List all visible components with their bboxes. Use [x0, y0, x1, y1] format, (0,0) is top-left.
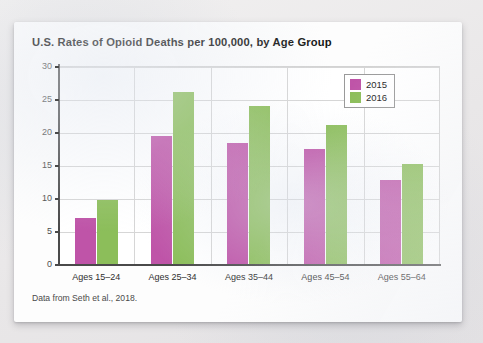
y-tick-label-30: 30 [42, 61, 52, 71]
y-tick-mark-5 [55, 231, 59, 233]
x-axis-label: Ages 25–34 [149, 272, 197, 282]
y-tick-label-25: 25 [42, 94, 52, 104]
legend-label-2016: 2016 [366, 92, 387, 103]
y-tick-label-20: 20 [42, 127, 52, 137]
x-axis-label: Ages 35–44 [225, 272, 273, 282]
x-axis-label: Ages 45–54 [301, 272, 349, 282]
legend-swatch-2016 [350, 92, 361, 103]
bar-2015 [227, 143, 248, 264]
x-axis-label: Ages 55–64 [378, 272, 426, 282]
y-tick-label-0: 0 [47, 259, 52, 269]
y-tick-label-10: 10 [42, 193, 52, 203]
y-tick-label-5: 5 [47, 226, 52, 236]
legend-swatch-2015 [350, 79, 361, 90]
y-tick-mark-30 [55, 66, 59, 68]
y-tick-label-15: 15 [42, 160, 52, 170]
x-axis-line [58, 264, 441, 266]
bar-2016 [402, 164, 423, 264]
bar-2015 [75, 218, 96, 264]
source-note: Data from Seth et al., 2018. [32, 293, 137, 303]
bar-2015 [151, 136, 172, 264]
chart-legend: 2015 2016 [344, 74, 395, 108]
bar-group [58, 67, 134, 264]
y-tick-mark-15 [55, 165, 59, 167]
bar-2016 [173, 92, 194, 264]
legend-label-2015: 2015 [366, 79, 387, 90]
bar-2016 [249, 106, 270, 264]
bar-group [134, 67, 210, 264]
y-tick-mark-25 [55, 99, 59, 101]
y-tick-mark-0 [55, 264, 59, 266]
bar-group [211, 67, 287, 264]
chart-title: U.S. Rates of Opioid Deaths per 100,000,… [32, 36, 332, 48]
x-axis-label: Ages 15–24 [72, 272, 120, 282]
y-tick-mark-20 [55, 132, 59, 134]
bar-2015 [304, 149, 325, 265]
legend-item-2016: 2016 [350, 92, 387, 103]
y-tick-mark-10 [55, 198, 59, 200]
figure-card: U.S. Rates of Opioid Deaths per 100,000,… [14, 22, 462, 322]
legend-item-2015: 2015 [350, 79, 387, 90]
bar-2015 [380, 180, 401, 264]
bar-2016 [326, 125, 347, 264]
y-axis-tick-labels: 051015202530 [28, 66, 52, 264]
bar-2016 [97, 200, 118, 264]
